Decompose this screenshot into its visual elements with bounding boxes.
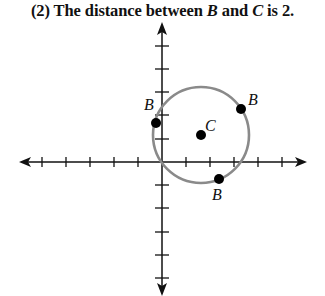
label-b-left: B (144, 96, 154, 113)
label-c: C (205, 117, 216, 134)
point-b-upper-right (236, 104, 246, 114)
point-b-bottom (214, 174, 224, 184)
label-b-bottom: B (212, 186, 222, 203)
y-axis (155, 22, 169, 296)
label-b-upper-right: B (248, 91, 258, 108)
coordinate-plane: C B B B (0, 0, 325, 296)
point-b-left (151, 118, 161, 128)
